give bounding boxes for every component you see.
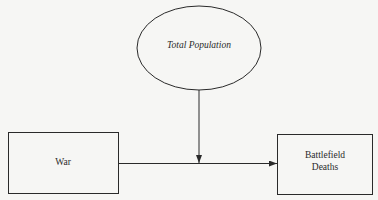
battlefield-deaths-label-line2: Deaths bbox=[277, 162, 373, 173]
battlefield-deaths-label-line1: Battlefield bbox=[277, 150, 373, 161]
total-population-label: Total Population bbox=[137, 40, 261, 51]
war-label: War bbox=[8, 157, 118, 168]
